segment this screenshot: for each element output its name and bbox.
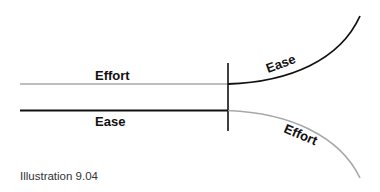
ease-label: Ease — [95, 114, 125, 129]
effort-label: Effort — [95, 68, 130, 83]
ease-curve — [228, 16, 360, 84]
diagram-canvas: Effort Ease Ease Effort Illustration 9.0… — [0, 0, 380, 192]
illustration-caption: Illustration 9.04 — [20, 170, 99, 182]
effort-curve — [228, 111, 360, 179]
